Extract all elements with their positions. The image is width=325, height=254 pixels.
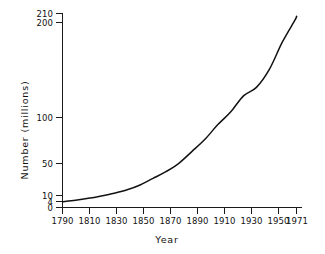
x-tick-label-1971: 1971 [286,216,308,226]
y-tick-label-100: 100 [36,113,53,123]
population-growth-chart: 210 200 100 50 10 4 0 1790 1810 1830 1 [0,0,325,254]
x-tick-label-1790: 1790 [51,216,73,226]
y-tick-label-0: 0 [47,203,53,213]
chart-container: 210 200 100 50 10 4 0 1790 1810 1830 1 [0,0,325,254]
x-tick-label-1910: 1910 [213,216,235,226]
x-tick-label-1870: 1870 [159,216,181,226]
x-tick-label-1830: 1830 [105,216,127,226]
x-axis-title: Year [154,234,178,245]
x-axis-tick-labels: 1790 1810 1830 1850 1870 1890 1910 1930 … [51,216,308,226]
y-axis-title: Number (millions) [19,81,30,180]
y-tick-label-50: 50 [42,159,53,169]
y-tick-label-200: 200 [36,18,53,28]
x-tick-label-1850: 1850 [132,216,154,226]
x-tick-label-1890: 1890 [186,216,208,226]
x-tick-label-1810: 1810 [78,216,100,226]
x-tick-label-1930: 1930 [240,216,262,226]
